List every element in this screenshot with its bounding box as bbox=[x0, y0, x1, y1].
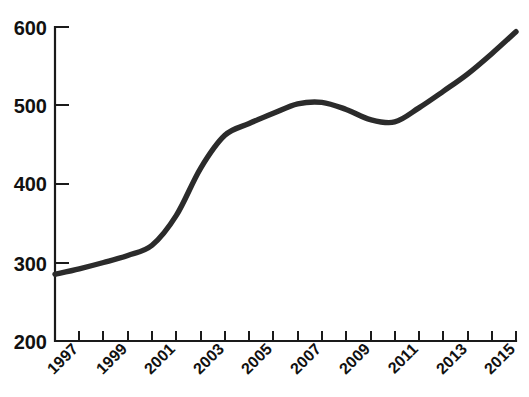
y-axis-ticks bbox=[55, 27, 69, 263]
y-axis-tick-labels: 600 500 400 300 200 bbox=[14, 17, 47, 353]
line-chart: 600 500 400 300 200 bbox=[0, 0, 529, 397]
x-tick-label-2001: 2001 bbox=[141, 340, 178, 377]
x-axis-tick-labels: 1997 1999 2001 2003 2005 2007 2009 2011 … bbox=[44, 340, 518, 377]
y-tick-label-200: 200 bbox=[14, 331, 47, 353]
x-tick-label-2013: 2013 bbox=[433, 340, 470, 377]
x-tick-label-1997: 1997 bbox=[44, 340, 81, 377]
y-tick-label-300: 300 bbox=[14, 253, 47, 275]
x-tick-label-2009: 2009 bbox=[336, 340, 373, 377]
x-tick-label-2015: 2015 bbox=[481, 340, 518, 377]
axis-lines bbox=[55, 27, 516, 341]
data-series-line bbox=[55, 32, 516, 275]
chart-canvas: 600 500 400 300 200 bbox=[0, 0, 529, 397]
x-tick-label-2011: 2011 bbox=[385, 340, 422, 377]
y-tick-label-600: 600 bbox=[14, 17, 47, 39]
x-tick-label-2003: 2003 bbox=[190, 340, 227, 377]
y-tick-label-500: 500 bbox=[14, 95, 47, 117]
x-tick-label-2005: 2005 bbox=[238, 340, 275, 377]
x-tick-label-1999: 1999 bbox=[93, 340, 130, 377]
x-axis-ticks bbox=[79, 331, 516, 341]
x-tick-label-2007: 2007 bbox=[287, 340, 324, 377]
y-tick-label-400: 400 bbox=[14, 173, 47, 195]
